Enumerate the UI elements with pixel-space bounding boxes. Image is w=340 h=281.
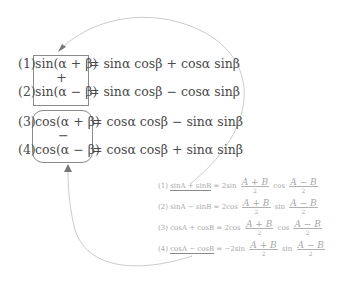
- eq-label-3: (3): [18, 114, 36, 129]
- pf-frac1-den: 2: [242, 208, 270, 216]
- product-formula-3: (3) cosA + cosB = 2cos A + B2 cos A − B2: [158, 220, 324, 237]
- pf-mid: cos: [273, 182, 285, 190]
- pf-eq: = 2cos: [214, 203, 238, 211]
- pf-label: (3): [158, 224, 168, 232]
- pf-label: (1): [158, 182, 168, 190]
- pf-frac2-num: A − B: [289, 199, 317, 208]
- product-formula-4: (4) cosA − cosB = −2sin A + B2 sin A − B…: [158, 241, 327, 258]
- eq-lhs-1: sin(α + β): [35, 56, 97, 71]
- product-formula-2: (2) sinA − sinB = 2cos A + B2 sin A − B2: [158, 199, 320, 216]
- pf-frac1: A + B2: [245, 220, 273, 237]
- pf-lhs: sinA + sinB: [170, 182, 211, 191]
- pf-eq: = 2cos: [216, 224, 240, 232]
- pf-frac2-den: 2: [289, 187, 317, 195]
- sin-operator: +: [56, 70, 67, 85]
- pf-eq: = −2sin: [216, 245, 245, 253]
- eq-lhs-2: sin(α − β): [35, 84, 97, 99]
- pf-frac2: A − B2: [289, 199, 317, 216]
- pf-frac2-num: A − B: [289, 178, 317, 187]
- eq-label-1: (1): [18, 56, 36, 71]
- pf-frac2-num: A − B: [297, 241, 325, 250]
- pf-lhs: cosA − cosB: [170, 245, 214, 254]
- pf-frac1-den: 2: [245, 229, 273, 237]
- pf-frac2: A − B2: [297, 241, 325, 258]
- pf-frac1-num: A + B: [241, 178, 269, 187]
- pf-label: (2): [158, 203, 168, 211]
- pf-mid: sin: [282, 245, 292, 253]
- pf-eq: = 2sin: [214, 182, 237, 190]
- pf-frac1-num: A + B: [242, 199, 270, 208]
- pf-mid: sin: [275, 203, 285, 211]
- pf-frac2: A − B2: [289, 178, 317, 195]
- pf-frac1: A + B2: [241, 178, 269, 195]
- pf-lhs: sinA − sinB: [170, 203, 211, 211]
- pf-frac1-den: 2: [241, 187, 269, 195]
- eq-rhs-3: = cosα cosβ − sinα sinβ: [92, 114, 243, 129]
- eq-lhs-3: cos(α + β): [35, 114, 100, 129]
- pf-label: (4): [158, 245, 168, 253]
- pf-frac2-den: 2: [297, 250, 325, 258]
- pf-frac1-num: A + B: [249, 241, 277, 250]
- pf-frac2-den: 2: [289, 208, 317, 216]
- pf-frac2: A − B2: [293, 220, 321, 237]
- product-formula-1: (1) sinA + sinB = 2sin A + B2 cos A − B2: [158, 178, 320, 195]
- eq-rhs-1: = sinα cosβ + cosα sinβ: [89, 56, 240, 71]
- cos-operator: −: [58, 128, 69, 143]
- pf-mid: cos: [278, 224, 290, 232]
- pf-lhs: cosA + cosB: [170, 224, 214, 232]
- eq-rhs-4: = cosα cosβ + sinα sinβ: [92, 142, 243, 157]
- eq-label-4: (4): [18, 142, 36, 157]
- arrow-bottom-head: [64, 164, 72, 172]
- pf-frac1-num: A + B: [245, 220, 273, 229]
- pf-frac1-den: 2: [249, 250, 277, 258]
- eq-rhs-2: = sinα cosβ − cosα sinβ: [89, 84, 240, 99]
- pf-frac1: A + B2: [242, 199, 270, 216]
- eq-label-2: (2): [18, 84, 36, 99]
- pf-frac2-num: A − B: [293, 220, 321, 229]
- pf-frac1: A + B2: [249, 241, 277, 258]
- eq-lhs-4: cos(α − β): [35, 142, 100, 157]
- pf-frac2-den: 2: [293, 229, 321, 237]
